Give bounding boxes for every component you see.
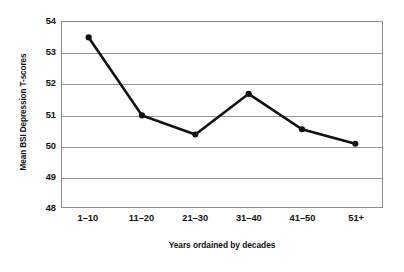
series-polyline	[89, 37, 356, 143]
x-axis-tick-label: 1–10	[58, 212, 118, 224]
x-axis-tick-label: 21–30	[165, 212, 225, 224]
data-point-marker	[86, 34, 92, 40]
data-point-marker	[299, 126, 305, 132]
y-axis-tick-label: 54	[34, 16, 56, 26]
x-axis-tick-label: 41–50	[273, 212, 333, 224]
x-axis-tick-label: 11–20	[112, 212, 172, 224]
y-axis-tick-label: 51	[34, 110, 56, 120]
y-axis-tick-label: 49	[34, 172, 56, 182]
y-axis-tick-label: 48	[34, 203, 56, 213]
data-point-marker	[192, 131, 198, 137]
x-axis-tick-label: 31–40	[219, 212, 279, 224]
data-point-marker	[352, 141, 358, 147]
chart-figure: Mean BSI Depression T-scores 48495051525…	[0, 0, 404, 272]
x-axis-tick-labels: 1–1011–2021–3031–4041–5051+	[61, 212, 383, 226]
data-series-line	[62, 22, 382, 207]
plot-area	[61, 21, 383, 208]
x-axis-tick-label: 51+	[326, 212, 386, 224]
x-axis-title: Years ordained by decades	[61, 240, 383, 250]
data-point-marker	[246, 91, 252, 97]
y-axis-tick-labels: 48495051525354	[34, 21, 56, 208]
y-axis-tick-label: 52	[34, 78, 56, 88]
y-axis-tick-label: 50	[34, 141, 56, 151]
y-axis-title: Mean BSI Depression T-scores	[16, 17, 32, 207]
y-axis-tick-label: 53	[34, 47, 56, 57]
data-point-marker	[139, 112, 145, 118]
